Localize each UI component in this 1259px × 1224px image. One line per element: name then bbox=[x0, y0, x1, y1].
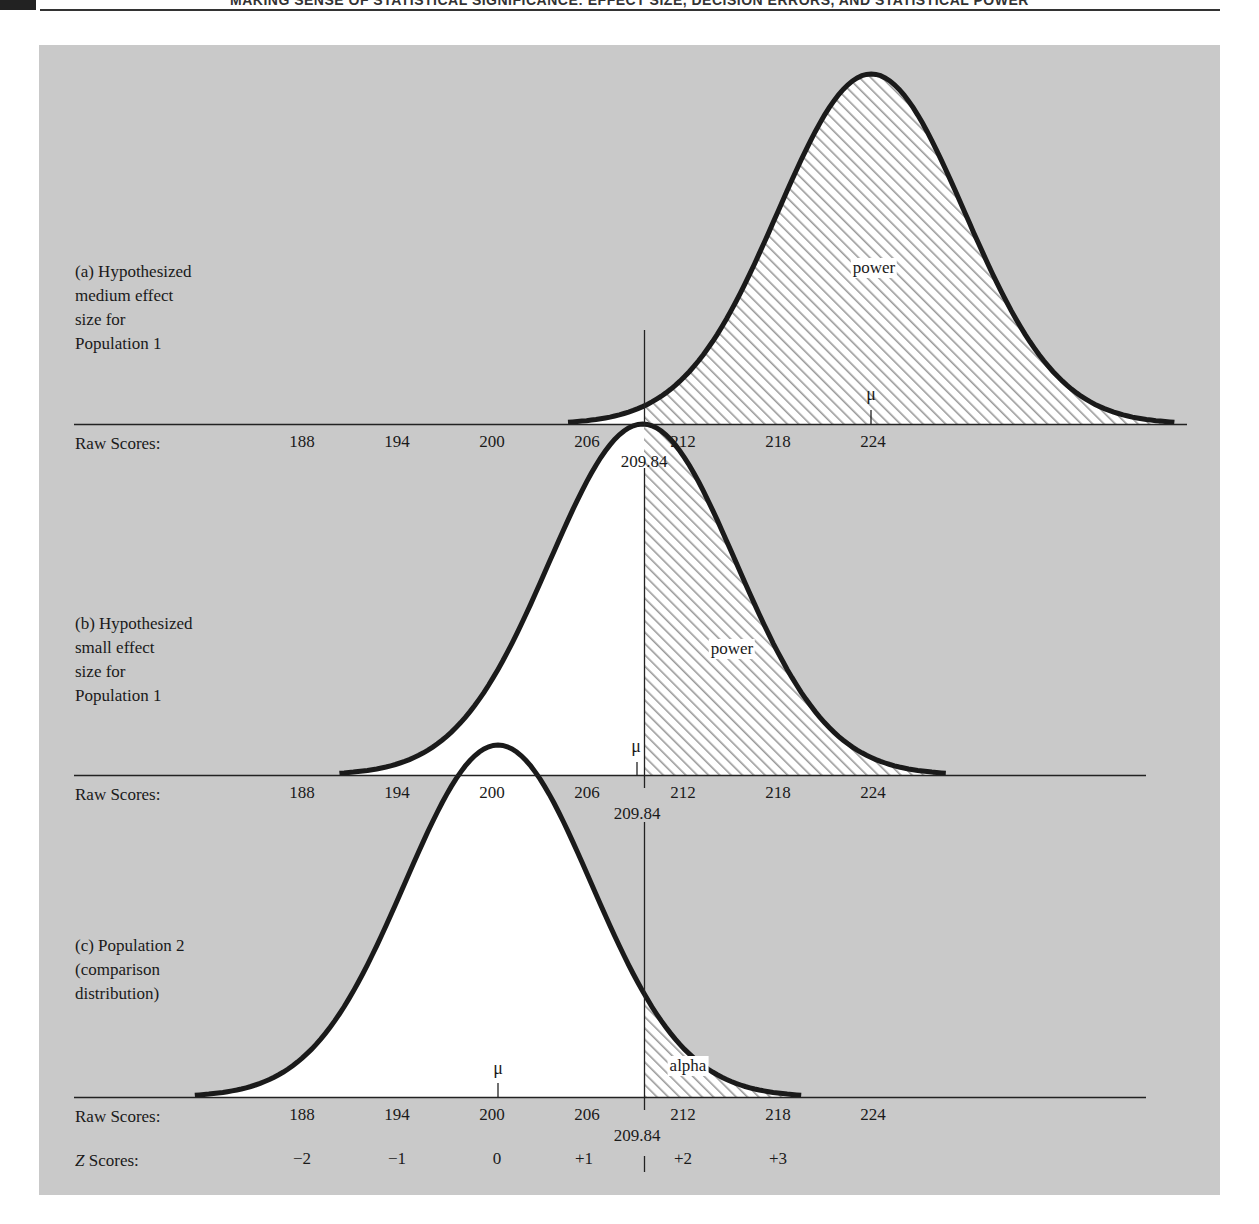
alpha-label-c: alpha bbox=[668, 1056, 709, 1076]
power-label-b: power bbox=[709, 639, 755, 659]
raw-scores-label-a: Raw Scores: bbox=[75, 432, 160, 456]
power-label-a: power bbox=[851, 258, 897, 278]
mean-symbol-b: μ bbox=[631, 736, 641, 757]
cutoff-value-a: 209.84 bbox=[621, 452, 668, 472]
z-scores-label: Z Scores: bbox=[75, 1149, 139, 1173]
panel-a-label: (a) Hypothesized medium effect size for … bbox=[75, 260, 192, 356]
mean-symbol-c: μ bbox=[493, 1058, 503, 1079]
cutoff-value-c: 209.84 bbox=[614, 1126, 661, 1146]
cutoff-value-b: 209.84 bbox=[614, 804, 661, 824]
panel-b-label: (b) Hypothesized small effect size for P… bbox=[75, 612, 193, 708]
panel-c-label: (c) Population 2 (comparison distributio… bbox=[75, 934, 185, 1006]
raw-scores-label-b: Raw Scores: bbox=[75, 783, 160, 807]
mean-symbol-a: μ bbox=[866, 384, 876, 405]
raw-scores-label-c: Raw Scores: bbox=[75, 1105, 160, 1129]
